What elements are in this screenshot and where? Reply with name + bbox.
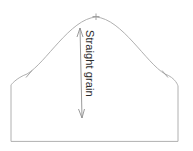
- pattern-outline-path: [11, 17, 178, 141]
- pattern-diagram-canvas: Straight grain: [0, 0, 193, 151]
- sleeve-cap-pattern-svg: [0, 0, 193, 151]
